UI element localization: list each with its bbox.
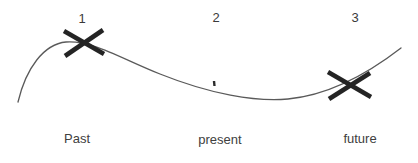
- point-2-tick-mark: [214, 81, 215, 86]
- node-number-2: 2: [196, 11, 236, 25]
- point-1-x-mark: [64, 30, 104, 56]
- axis-label-future: future: [315, 131, 405, 146]
- node-number-1: 1: [62, 12, 102, 26]
- point-3-x-mark: [328, 72, 371, 99]
- node-number-3: 3: [335, 11, 375, 25]
- axis-label-present: present: [175, 132, 265, 147]
- diagram-canvas: 1 2 3 Past present future: [0, 0, 418, 163]
- axis-label-past: Past: [32, 131, 122, 146]
